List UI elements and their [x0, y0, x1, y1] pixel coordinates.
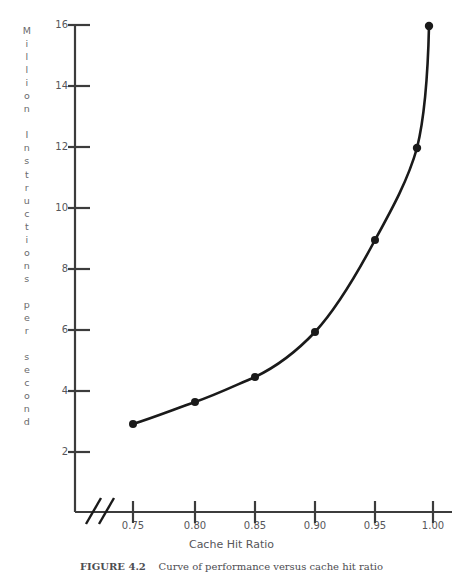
y-axis-ticks: [68, 25, 90, 452]
figure-caption-text: Curve of performance versus cache hit ra…: [159, 561, 383, 572]
data-point: [371, 236, 379, 244]
data-point: [425, 22, 433, 30]
data-point: [129, 420, 137, 428]
figure-caption: FIGURE 4.2 Curve of performance versus c…: [0, 561, 463, 572]
data-point: [413, 144, 421, 152]
plot-area: [0, 0, 463, 572]
figure-caption-label: FIGURE 4.2: [80, 561, 146, 572]
data-point: [251, 373, 259, 381]
figure-root: M i l l i o n I n s t r u c t i o n s p …: [0, 0, 463, 572]
data-point: [311, 328, 319, 336]
data-point: [191, 398, 199, 406]
data-line-performance: [133, 26, 429, 424]
data-point-markers: [129, 22, 433, 428]
